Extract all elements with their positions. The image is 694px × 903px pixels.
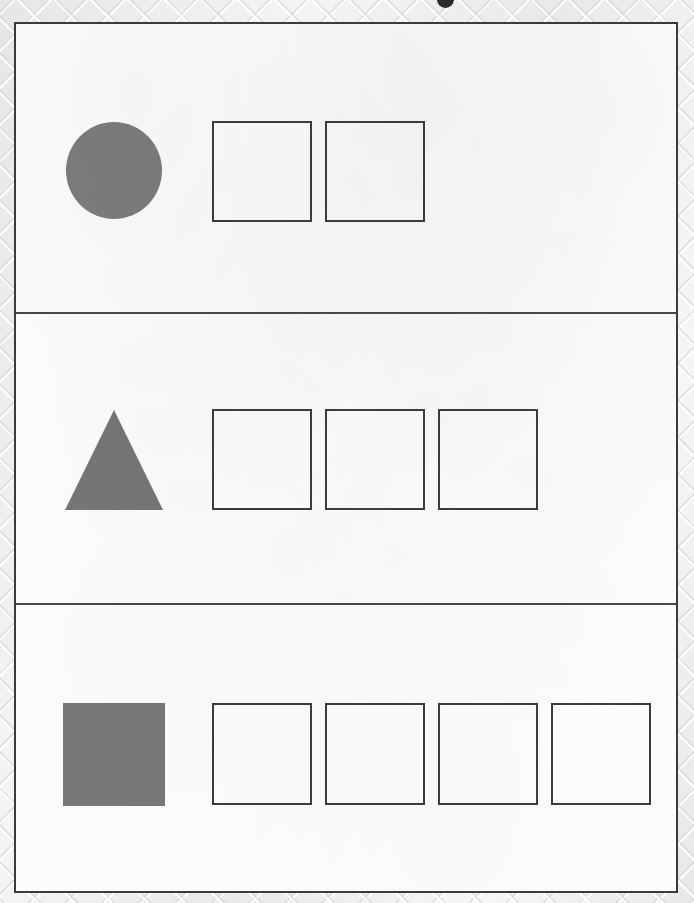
answer-box[interactable] xyxy=(325,703,425,805)
answer-box[interactable] xyxy=(551,703,651,805)
answer-box[interactable] xyxy=(212,703,312,805)
answer-boxes-row-3 xyxy=(212,691,676,805)
square-shape xyxy=(63,703,165,806)
triangle-shape xyxy=(65,410,163,510)
answer-box[interactable] xyxy=(212,409,312,510)
shape-cell-square xyxy=(16,691,212,806)
answer-boxes-row-1 xyxy=(212,115,676,222)
answer-box[interactable] xyxy=(325,121,425,222)
answer-box[interactable] xyxy=(438,409,538,510)
answer-boxes-row-2 xyxy=(212,407,676,510)
answer-box[interactable] xyxy=(438,703,538,805)
table-row xyxy=(16,24,676,314)
answer-box[interactable] xyxy=(212,121,312,222)
scanned-worksheet-page xyxy=(0,0,694,903)
ink-mark-icon xyxy=(437,0,454,8)
circle-shape xyxy=(66,122,162,219)
table-row xyxy=(16,314,676,605)
answer-box[interactable] xyxy=(325,409,425,510)
shape-cell-triangle xyxy=(16,408,212,510)
worksheet-table xyxy=(14,22,678,893)
table-row xyxy=(16,605,676,891)
shape-cell-circle xyxy=(16,118,212,219)
